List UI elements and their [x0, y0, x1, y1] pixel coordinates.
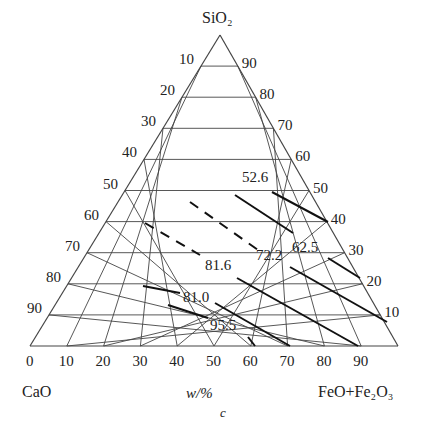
right-corner-label: FeO+Fe₂O₃ [318, 384, 393, 399]
right-tick-label: 20 [366, 274, 381, 289]
contour-label: 52.6 [242, 170, 268, 185]
contour-label: 72.2 [256, 248, 282, 263]
bottom-tick-label: 60 [243, 354, 258, 369]
grid-line [49, 315, 361, 346]
dashed-contour-line [190, 202, 258, 250]
bottom-tick-label: 80 [316, 354, 331, 369]
contour-label: 81.6 [205, 258, 231, 273]
bottom-tick-label: 30 [132, 354, 147, 369]
contour-label: 95.5 [210, 318, 236, 333]
contour-line [168, 305, 208, 318]
left-tick-label: 10 [179, 52, 194, 67]
right-tick-label: 90 [242, 56, 257, 71]
contour-label: 62.5 [292, 240, 318, 255]
contour-line [328, 258, 360, 278]
axis-unit: w/% [186, 386, 213, 401]
bottom-tick-label: 0 [26, 354, 34, 369]
left-tick-label: 80 [46, 270, 61, 285]
left-corner-label: CaO [22, 384, 51, 399]
left-tick-label: 20 [160, 83, 175, 98]
grid-line [125, 191, 214, 347]
bottom-tick-label: 10 [59, 354, 74, 369]
left-tick-label: 60 [84, 208, 99, 223]
right-tick-label: 60 [295, 149, 310, 164]
left-tick-label: 50 [103, 177, 118, 192]
right-tick-label: 10 [384, 305, 399, 320]
left-tick-label: 30 [141, 114, 156, 129]
right-tick-label: 80 [260, 87, 275, 102]
bottom-tick-label: 20 [96, 354, 111, 369]
apex-label: SiO₂ [202, 10, 232, 25]
bottom-tick-label: 90 [353, 354, 368, 369]
left-tick-label: 70 [65, 239, 80, 254]
panel-label: c [220, 405, 226, 420]
grid-line [273, 128, 287, 346]
bottom-tick-label: 40 [169, 354, 184, 369]
bottom-tick-label: 70 [280, 354, 295, 369]
right-tick-label: 70 [277, 118, 292, 133]
contour-line [272, 192, 328, 222]
right-tick-label: 30 [349, 243, 364, 258]
bottom-tick-label: 50 [206, 354, 221, 369]
right-tick-label: 40 [331, 212, 346, 227]
left-tick-label: 40 [122, 145, 137, 160]
right-tick-label: 50 [313, 181, 328, 196]
contour-label: 81.0 [183, 290, 209, 305]
left-tick-label: 90 [27, 301, 42, 316]
